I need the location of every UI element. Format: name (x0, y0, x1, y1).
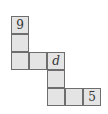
grid-cell-r4-c3 (65, 88, 83, 106)
grid-cell-r2-c1 (29, 52, 47, 70)
grid-cell-r1-c0 (11, 34, 29, 52)
grid-cell-r3-c2 (47, 70, 65, 88)
grid-cell-r4-c2 (47, 88, 65, 106)
grid-cell-r0-c0: 9 (11, 16, 29, 34)
grid-cell-r4-c4: 5 (83, 88, 101, 106)
number-grid-diagram: 9 d 5 (0, 0, 108, 114)
grid-cell-r2-c2: d (47, 52, 65, 70)
grid-cell-r2-c0 (11, 52, 29, 70)
